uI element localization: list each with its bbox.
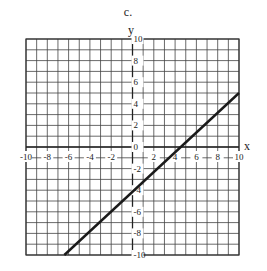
x-tick-label: 10: [235, 152, 245, 162]
x-tick-label: 2: [152, 152, 157, 162]
x-tick-label: 6: [194, 152, 199, 162]
x-axis-label: x: [244, 139, 250, 153]
x-tick-label: 8: [215, 152, 220, 162]
y-tick-label: 2: [134, 120, 139, 130]
y-tick-label: 0: [134, 142, 139, 152]
x-tick-label: -2: [107, 152, 115, 162]
panel-label: c.: [124, 5, 132, 19]
y-tick-label: -10: [134, 250, 146, 260]
x-tick-label: -4: [86, 152, 94, 162]
x-tick-label: -10: [20, 152, 32, 162]
y-tick-label: -2: [134, 164, 142, 174]
y-tick-label: 8: [134, 56, 139, 66]
x-tick-label: -8: [44, 152, 52, 162]
y-tick-label: 4: [134, 99, 139, 109]
y-tick-label: -8: [134, 228, 142, 238]
y-tick-label: -6: [134, 207, 142, 217]
y-axis-label: y: [128, 23, 134, 37]
plotted-line: [64, 93, 239, 255]
x-tick-label: -6: [65, 152, 73, 162]
y-tick-label: 10: [134, 34, 144, 44]
y-tick-label: 6: [134, 77, 139, 87]
coordinate-plane: -10-8-6-4-22468101086420-2-4-6-8-10 c. y…: [0, 0, 267, 271]
